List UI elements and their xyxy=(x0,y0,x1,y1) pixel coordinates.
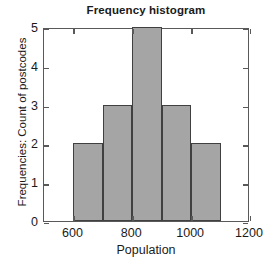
x-tick-mark xyxy=(132,216,133,221)
y-tick-mark xyxy=(44,68,49,69)
y-tick-mark xyxy=(44,184,49,185)
plot-area xyxy=(43,28,249,222)
histogram-bar xyxy=(191,143,220,221)
x-axis-label: Population xyxy=(43,243,249,257)
x-tick-mark xyxy=(73,216,74,221)
x-tick-label: 600 xyxy=(62,226,83,240)
histogram-bar xyxy=(132,27,161,221)
y-tick-mark xyxy=(44,223,49,224)
x-tick-label: 1200 xyxy=(235,226,263,240)
histogram-bar xyxy=(73,143,102,221)
y-tick-mark xyxy=(44,145,49,146)
x-tick-mark xyxy=(191,216,192,221)
x-tick-mark-top xyxy=(132,29,133,34)
x-tick-label: 800 xyxy=(121,226,142,240)
y-axis-label: Frequencies: Count of postcodes xyxy=(16,22,28,222)
y-tick-mark-right xyxy=(243,145,248,146)
histogram-bar xyxy=(162,105,191,221)
x-tick-mark-top xyxy=(191,29,192,34)
bars-layer xyxy=(44,29,248,221)
histogram-figure: Frequency histogram 60080010001200 01234… xyxy=(0,0,274,268)
x-tick-mark xyxy=(250,216,251,221)
x-tick-label: 1000 xyxy=(176,226,204,240)
histogram-bar xyxy=(103,105,132,221)
y-tick-mark-right xyxy=(243,184,248,185)
x-tick-mark-top xyxy=(250,29,251,34)
y-tick-mark-right xyxy=(243,68,248,69)
x-tick-mark-top xyxy=(73,29,74,34)
y-tick-mark-right xyxy=(243,107,248,108)
y-tick-mark xyxy=(44,107,49,108)
y-tick-mark xyxy=(44,29,49,30)
chart-title: Frequency histogram xyxy=(43,4,249,16)
y-tick-mark-right xyxy=(243,223,248,224)
y-tick-mark-right xyxy=(243,29,248,30)
